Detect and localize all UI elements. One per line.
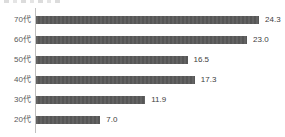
- value-label: 7.0: [106, 116, 117, 124]
- bar-row: 40代 17.3: [0, 70, 285, 90]
- bar: [36, 56, 188, 64]
- bar-rows: 70代 24.3 60代 23.0 50代 16.5 40代 17.3 30代 …: [0, 10, 285, 130]
- category-label: 40代: [0, 76, 31, 84]
- bar-chart: 70代 24.3 60代 23.0 50代 16.5 40代 17.3 30代 …: [0, 0, 285, 137]
- category-label: 70代: [0, 16, 31, 24]
- category-label: 50代: [0, 56, 31, 64]
- bar-row: 70代 24.3: [0, 10, 285, 30]
- bar-row: 50代 16.5: [0, 50, 285, 70]
- bar: [36, 76, 195, 84]
- value-label: 23.0: [253, 36, 269, 44]
- value-label: 24.3: [265, 16, 281, 24]
- clipped-text-fragment: [4, 0, 60, 3]
- bar: [36, 116, 100, 124]
- category-label: 30代: [0, 96, 31, 104]
- category-label: 20代: [0, 116, 31, 124]
- bar-row: 30代 11.9: [0, 90, 285, 110]
- bar-row: 60代 23.0: [0, 30, 285, 50]
- bar: [36, 36, 247, 44]
- category-label: 60代: [0, 36, 31, 44]
- bar: [36, 96, 145, 104]
- bar-row: 20代 7.0: [0, 110, 285, 130]
- value-label: 11.9: [151, 96, 166, 104]
- bar: [36, 16, 259, 24]
- value-label: 17.3: [201, 76, 217, 84]
- value-label: 16.5: [194, 56, 210, 64]
